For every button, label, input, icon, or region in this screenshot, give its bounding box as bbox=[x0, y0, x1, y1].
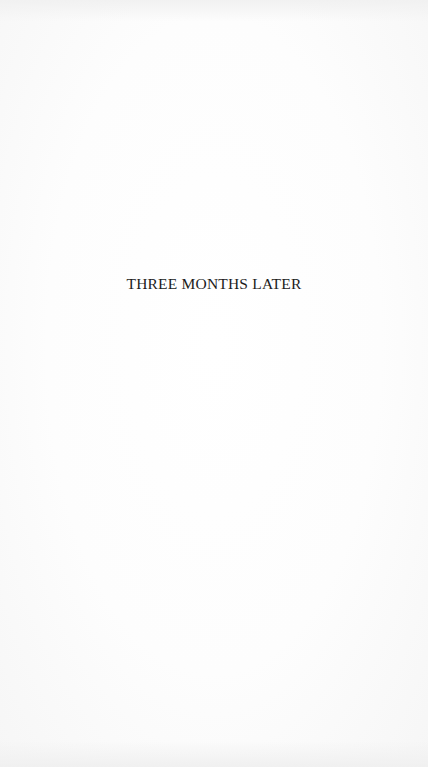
section-heading: THREE MONTHS LATER bbox=[0, 274, 428, 294]
book-page[interactable]: THREE MONTHS LATER bbox=[0, 0, 428, 767]
